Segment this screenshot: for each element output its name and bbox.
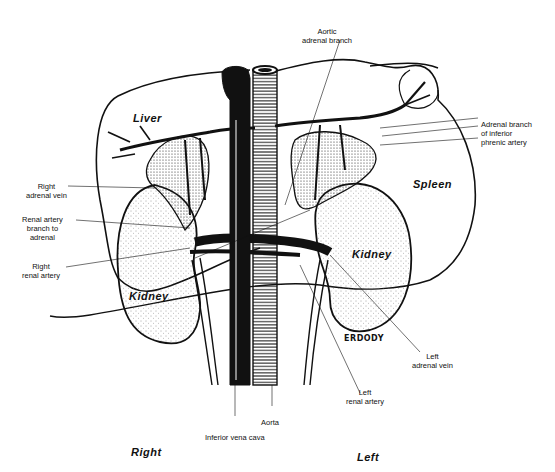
right-adrenal-vein-label: Right adrenal vein [26, 182, 67, 200]
liver-label: Liver [133, 112, 162, 124]
diagram-artwork [0, 0, 555, 472]
inferior-vena-cava-label: Inferior vena cava [205, 433, 265, 442]
left-adrenal-vein-label: Left adrenal vein [412, 352, 453, 370]
left-kidney-label: Kidney [352, 248, 392, 260]
aorta-label: Aorta [261, 418, 279, 427]
left-side-label: Left [357, 451, 379, 463]
spleen-label: Spleen [413, 178, 452, 190]
aortic-adrenal-branch-label: Aortic adrenal branch [302, 27, 352, 45]
right-kidney-label: Kidney [129, 290, 169, 302]
inferior-vena-cava [222, 66, 250, 385]
artist-signature: ERDODY [344, 334, 384, 343]
renal-artery-branch-label: Renal artery branch to adrenal [22, 215, 63, 242]
adrenal-branch-inferior-phrenic-label: Adrenal branch of inferior phrenic arter… [481, 120, 532, 147]
anatomy-diagram: Liver Spleen Kidney Kidney Aortic adrena… [0, 0, 555, 472]
right-side-label: Right [131, 446, 162, 458]
left-renal-artery-label: Left renal artery [346, 388, 384, 406]
right-renal-artery-label: Right renal artery [22, 262, 60, 280]
